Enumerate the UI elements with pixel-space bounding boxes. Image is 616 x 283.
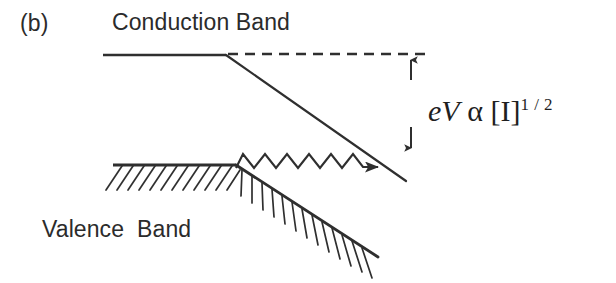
- conduction-band-label: Conduction Band: [112, 9, 290, 36]
- equation-species: I: [500, 94, 510, 127]
- zigzag-arrow: [236, 154, 378, 168]
- valence-band-slope-hatching: [241, 170, 372, 278]
- equation-proportional-symbol: α: [467, 94, 483, 127]
- equation-exponent: 1 / 2: [520, 95, 553, 114]
- band-diagram-figure: (b) Conduction Band Valence Band eV α [I…: [0, 0, 616, 283]
- equation-term-e: e: [428, 94, 441, 127]
- equation-bracket-open: [: [490, 94, 500, 127]
- panel-label: (b): [20, 10, 49, 37]
- valence-band-label: Valence Band: [42, 216, 191, 243]
- equation-label: eV α [I]1 / 2: [428, 94, 553, 128]
- valence-band-flat-hatching: [106, 166, 240, 190]
- equation-bracket-close: ]: [510, 94, 520, 127]
- valence-band-slope: [236, 165, 378, 257]
- equation-term-v: V: [441, 94, 459, 127]
